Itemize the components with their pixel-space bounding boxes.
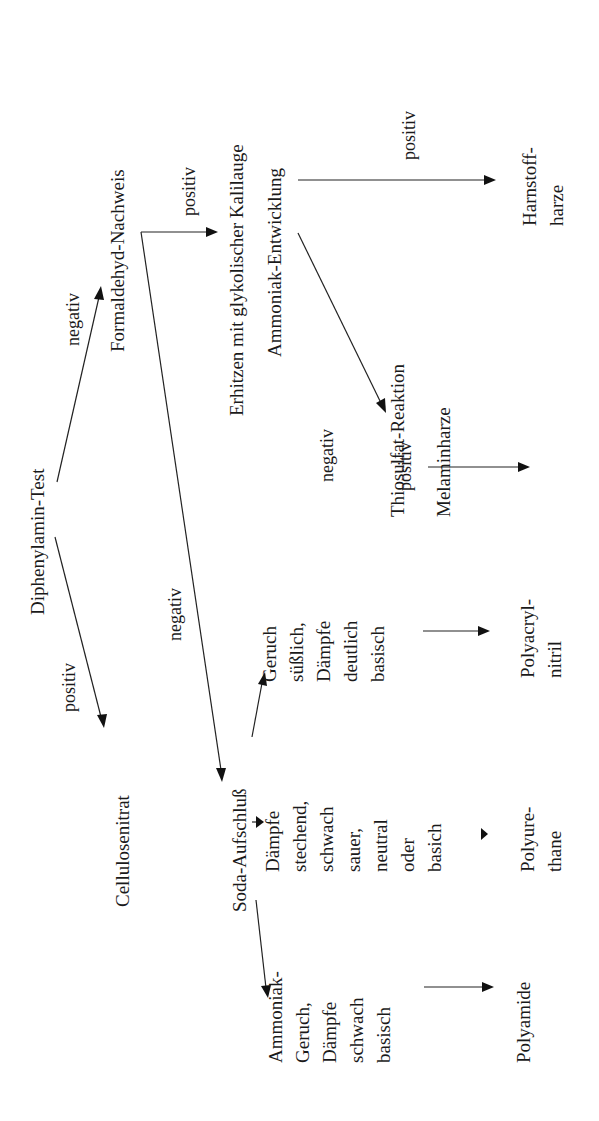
- node-soda-aufschluss: Soda-Aufschluß: [230, 789, 249, 912]
- edge-label-diph-positiv: positiv: [60, 663, 78, 712]
- node-polyacrylnitril: Polyacryl- nitril: [514, 599, 568, 678]
- diagram-edges: [0, 0, 599, 1121]
- edge-form-soda: [141, 232, 221, 770]
- geruch-line-2: süßlich,: [283, 621, 310, 682]
- pan-line-2: nitril: [541, 599, 568, 678]
- ammgeruch-line-2: Geruch,: [289, 971, 316, 1063]
- node-cellulosenitrat: Cellulosenitrat: [113, 795, 132, 907]
- ammgeruch-line-3: Dämpfe: [316, 971, 343, 1063]
- ammgeruch-line-5: basisch: [370, 971, 397, 1063]
- edge-label-form-negativ: negativ: [166, 588, 184, 641]
- node-ammoniak-geruch: Ammoniak- Geruch, Dämpfe schwach basisch: [262, 971, 397, 1063]
- edge-label-amm-positiv: positiv: [400, 111, 418, 160]
- arrowhead-icon: [216, 768, 226, 782]
- ammgeruch-line-1: Ammoniak-: [262, 971, 289, 1063]
- arrowhead-icon: [206, 227, 218, 237]
- node-geruch-suesslich: Geruch süßlich, Dämpfe deutlich basisch: [256, 621, 391, 682]
- node-harnstoffharze: Harnstoff- harze: [516, 147, 570, 226]
- arrowhead-icon: [518, 462, 530, 472]
- node-diphenylamin-test: Diphenylamin-Test: [28, 469, 47, 615]
- harnstoffharze-line-1: Harnstoff-: [516, 147, 543, 226]
- pur-line-2: thane: [541, 807, 568, 872]
- harnstoffharze-line-2: harze: [543, 147, 570, 226]
- node-erhitzen-kalilauge: Erhitzen mit glykolischer Kalilauge: [227, 144, 246, 416]
- node-daempfe-stechend: Dämpfe stechend, schwach sauer, neutral …: [259, 801, 448, 872]
- edge-soda-geruch: [252, 683, 262, 737]
- arrowhead-icon: [376, 398, 386, 413]
- arrowhead-icon: [97, 714, 107, 728]
- geruch-line-4: deutlich: [337, 621, 364, 682]
- arrowhead-icon: [484, 175, 496, 185]
- daempfe-line-2: stechend,: [286, 801, 313, 872]
- arrowhead-icon: [94, 286, 104, 300]
- node-ammoniak-entwicklung: Ammoniak-Entwicklung: [265, 168, 284, 357]
- node-polyurethane: Polyure- thane: [514, 807, 568, 872]
- daempfe-line-4: sauer,: [340, 801, 367, 872]
- daempfe-line-7: basich: [421, 801, 448, 872]
- edge-label-amm-negativ: negativ: [318, 429, 336, 482]
- geruch-line-5: basisch: [364, 621, 391, 682]
- edge-label-form-positiv: positiv: [180, 167, 198, 216]
- arrowhead-icon: [481, 828, 488, 840]
- node-melaminharze: Melaminharze: [434, 407, 453, 517]
- edge-label-thio-positiv: positiv: [396, 442, 414, 491]
- node-formaldehyd-nachweis: Formaldehyd-Nachweis: [108, 169, 127, 352]
- edge-label-diph-negativ: negativ: [64, 293, 82, 346]
- pan-line-1: Polyacryl-: [514, 599, 541, 678]
- daempfe-line-5: neutral: [367, 801, 394, 872]
- geruch-line-3: Dämpfe: [310, 621, 337, 682]
- pur-line-1: Polyure-: [514, 807, 541, 872]
- daempfe-line-3: schwach: [313, 801, 340, 872]
- daempfe-line-6: oder: [394, 801, 421, 872]
- daempfe-line-1: Dämpfe: [259, 801, 286, 872]
- node-polyamide: Polyamide: [514, 982, 533, 1063]
- arrowhead-icon: [482, 982, 494, 992]
- geruch-line-1: Geruch: [256, 621, 283, 682]
- node-thiosulfat-reaktion: Thiosulfat-Reaktion: [388, 364, 407, 517]
- edge-amm-thio: [298, 233, 381, 403]
- arrowhead-icon: [478, 626, 490, 636]
- ammgeruch-line-4: schwach: [343, 971, 370, 1063]
